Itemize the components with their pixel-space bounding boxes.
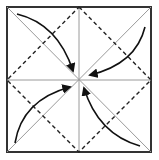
fold-diagram	[0, 0, 159, 160]
crease-lines	[7, 7, 151, 152]
